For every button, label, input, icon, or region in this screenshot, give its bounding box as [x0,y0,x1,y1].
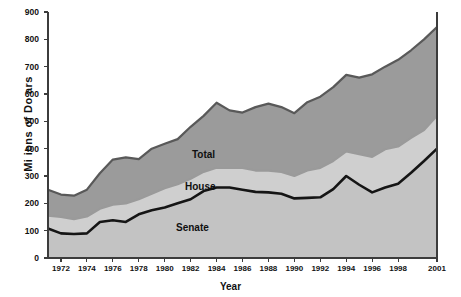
y-tick-label: 800 [9,35,39,43]
y-tick-label: 0 [9,254,39,262]
y-tick-label: 900 [9,8,39,16]
x-tick-marks [61,258,437,262]
series-label-senate: Senate [176,222,209,233]
series-label-house: House [185,181,216,192]
y-tick-label: 100 [9,227,39,235]
series-label-total: Total [192,149,215,160]
y-tick-marks [44,12,48,258]
y-tick-label: 500 [9,117,39,125]
y-tick-label: 400 [9,145,39,153]
area-bands [48,27,437,258]
y-tick-label: 700 [9,63,39,71]
y-tick-label: 600 [9,90,39,98]
y-tick-label: 300 [9,172,39,180]
y-tick-label: 200 [9,199,39,207]
x-tick-label: 1998 [381,264,415,273]
stacked-area-plot [0,0,461,297]
chart-figure: Mi ions of Do ars 0100200300400500600700… [0,0,461,297]
x-axis-title: Year [0,281,461,292]
x-tick-label: 2001 [420,264,454,273]
